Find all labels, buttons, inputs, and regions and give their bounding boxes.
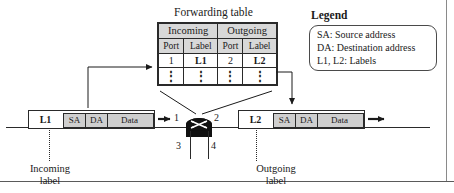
port-number-2: 2 [214, 112, 219, 123]
outgoing-caption-line2: label [236, 175, 316, 187]
group-header-outgoing: Outgoing [218, 24, 277, 39]
router-leg-3 [190, 131, 191, 159]
outgoing-field-da: DA [296, 114, 317, 127]
outgoing-caption-line1: Outgoing [236, 163, 316, 175]
legend-entry-labels: L1, L2: Labels [317, 55, 376, 66]
legend-entry-da: DA: Destination address [317, 42, 415, 53]
incoming-packet-label: L1 [29, 111, 62, 128]
legend-box: SA: Source address DA: Destination addre… [309, 25, 437, 71]
incoming-caption-line2: label [10, 175, 90, 187]
router-leg-4 [208, 131, 209, 159]
incoming-packet: L1 SA DA Data [28, 110, 155, 129]
column-header-in-label: Label [184, 39, 218, 54]
forwarding-table-title: Forwarding table [174, 6, 253, 18]
port-number-4: 4 [211, 140, 216, 151]
incoming-caption-line1: Incoming [10, 163, 90, 175]
cell-ellipsis-out-label: ⋮ [243, 68, 277, 85]
outgoing-label-caption: Outgoing label [236, 163, 316, 186]
port-number-3: 3 [176, 140, 181, 151]
column-header-in-port: Port [159, 39, 184, 54]
frame-right-rule [446, 0, 447, 182]
port-number-1: 1 [174, 112, 179, 123]
outgoing-packet-label: L2 [239, 111, 272, 128]
incoming-label-leader [49, 128, 50, 161]
table-column-header-row: Port Label Port Label [159, 39, 277, 54]
column-header-out-label: Label [243, 39, 277, 54]
incoming-field-sa: SA [64, 114, 85, 127]
cell-ellipsis-out-port: ⋮ [218, 68, 243, 85]
legend-title: Legend [311, 9, 347, 21]
incoming-field-da: DA [86, 114, 107, 127]
incoming-field-data: Data [108, 114, 151, 127]
group-header-incoming: Incoming [159, 24, 218, 39]
incoming-label-caption: Incoming label [10, 163, 90, 186]
cell-in-port: 1 [159, 54, 184, 68]
incoming-label-lookup-connector [88, 67, 152, 108]
router-switch-icon [186, 118, 212, 131]
table-row-ellipsis: ⋮ ⋮ ⋮ ⋮ [159, 68, 277, 85]
diagram-canvas: Forwarding table Incoming Outgoing Port … [0, 0, 454, 193]
table-row: 1 L1 2 L2 [159, 54, 277, 68]
outgoing-label-leader [256, 128, 257, 161]
cell-out-port: 2 [218, 54, 243, 68]
legend-entry-sa: SA: Source address [317, 29, 395, 40]
incoming-packet-payload: SA DA Data [63, 113, 154, 128]
table-group-header-row: Incoming Outgoing [159, 24, 277, 39]
outgoing-packet-payload: SA DA Data [273, 113, 364, 128]
cell-in-label: L1 [184, 54, 218, 68]
outgoing-field-data: Data [318, 114, 361, 127]
column-header-out-port: Port [218, 39, 243, 54]
cell-ellipsis-in-label: ⋮ [184, 68, 218, 85]
outgoing-field-sa: SA [274, 114, 295, 127]
outgoing-label-result-connector [276, 72, 292, 104]
cell-ellipsis-in-port: ⋮ [159, 68, 184, 85]
forwarding-table: Incoming Outgoing Port Label Port Label … [157, 22, 278, 86]
outgoing-packet: L2 SA DA Data [238, 110, 365, 129]
cell-out-label: L2 [243, 54, 277, 68]
